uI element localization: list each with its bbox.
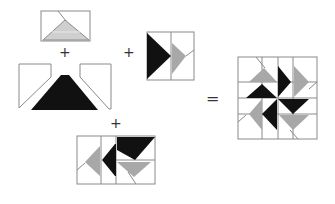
quilt-diagram <box>0 0 335 204</box>
final-pinwheel-block <box>238 57 317 139</box>
bottom-rectangle-piece <box>77 136 155 184</box>
plus-sign-3: + <box>110 116 122 130</box>
plus-sign-2: + <box>123 45 135 59</box>
top-rectangle-piece <box>41 11 90 41</box>
plus-sign-1: + <box>59 45 71 59</box>
equals-sign: = <box>206 91 219 107</box>
square-triangles-piece <box>147 32 194 80</box>
